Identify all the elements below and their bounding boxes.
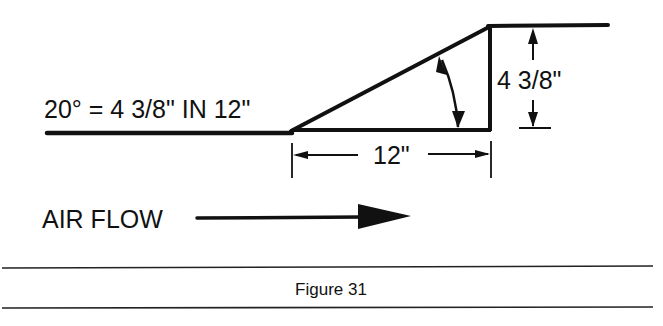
caption-top-rule	[2, 266, 653, 268]
run-dimension-label: 12"	[373, 141, 410, 169]
height-dimension: 4 3/8"	[497, 28, 561, 128]
height-arrow-up-icon	[528, 28, 538, 44]
run-dimension: 12"	[292, 141, 491, 178]
caption-bottom-rule	[2, 307, 653, 308]
figure-31-diagram: 4 3/8" 12" 20° = 4 3/8" IN 12" AIR FLOW …	[0, 0, 663, 326]
upper-level-line	[488, 25, 608, 26]
run-arrow-right-icon	[475, 150, 490, 158]
run-arrow-left-icon	[293, 151, 308, 159]
height-arrow-down-icon	[528, 112, 538, 127]
airflow-label: AIR FLOW	[42, 205, 163, 233]
caption-block: Figure 31	[2, 266, 653, 308]
angle-arc-indicator	[436, 56, 465, 128]
airflow-arrow-shaft	[197, 217, 362, 218]
figure-caption: Figure 31	[295, 280, 367, 299]
height-dimension-label: 4 3/8"	[497, 66, 561, 94]
ratio-label: 20° = 4 3/8" IN 12"	[44, 95, 250, 123]
airflow-arrow-icon	[358, 204, 411, 229]
arc-arrowhead-bottom-icon	[452, 111, 465, 128]
airflow-indicator: AIR FLOW	[42, 204, 411, 233]
